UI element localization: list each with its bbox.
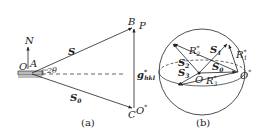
svg-text:R*3: R*3 bbox=[205, 74, 218, 87]
label-b: B bbox=[127, 16, 135, 27]
label-o: O bbox=[19, 61, 27, 72]
svg-text:g*hkl: g*hkl bbox=[137, 68, 156, 81]
label-n: N bbox=[24, 35, 35, 46]
label-p: P bbox=[138, 20, 146, 31]
label-g-hkl: g*hkl bbox=[137, 68, 156, 81]
svg-text:S0: S0 bbox=[212, 61, 224, 73]
label-ostar-b: O* bbox=[240, 68, 251, 81]
svg-text:S0: S0 bbox=[70, 92, 82, 104]
svg-text:O*: O* bbox=[136, 103, 147, 116]
svg-text:R*1: R*1 bbox=[235, 48, 247, 61]
label-s0: S0 bbox=[70, 92, 82, 104]
label-2theta: 2θ bbox=[46, 66, 57, 75]
s0-vector bbox=[32, 74, 132, 108]
panel-b: O O* S1 S2 S3 S0 R*1 R*2 R*3 (b) bbox=[159, 29, 251, 128]
svg-text:R*2: R*2 bbox=[188, 44, 201, 57]
caption-b: (b) bbox=[196, 117, 210, 128]
label-o-b: O bbox=[195, 74, 203, 85]
label-s0-b: S0 bbox=[212, 61, 224, 73]
panel-a: N O A 2θ S S0 B P C O* g*hkl (a) bbox=[18, 16, 156, 128]
label-s: S bbox=[68, 46, 75, 57]
label-r2: R*2 bbox=[188, 44, 201, 57]
label-c: C bbox=[128, 109, 136, 120]
label-r1: R*1 bbox=[235, 48, 247, 61]
label-ostar-a: O* bbox=[136, 103, 147, 116]
diffraction-diagram: N O A 2θ S S0 B P C O* g*hkl (a) bbox=[0, 0, 263, 140]
label-r3: R*3 bbox=[205, 74, 218, 87]
caption-a: (a) bbox=[81, 117, 95, 128]
s0-vector-b bbox=[199, 72, 236, 73]
label-s1: S1 bbox=[210, 44, 221, 56]
svg-text:S1: S1 bbox=[210, 44, 221, 56]
svg-text:O*: O* bbox=[240, 68, 251, 81]
label-a: A bbox=[29, 58, 37, 69]
